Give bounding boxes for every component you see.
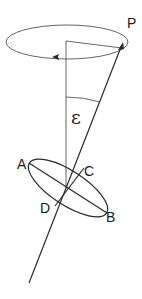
precession-diagram: P ε A B C D [0,0,142,299]
label-epsilon: ε [71,106,81,128]
label-a: A [17,156,27,172]
label-p: P [127,15,136,31]
angle-arc [66,97,100,102]
label-d: D [40,200,50,216]
axis-arrow-icon [118,42,124,50]
label-c: C [84,163,94,179]
precession-circle [6,25,128,59]
radius-line [66,41,122,48]
label-b: B [106,209,115,225]
rotation-axis [29,47,121,283]
diameter-cd [55,168,84,206]
